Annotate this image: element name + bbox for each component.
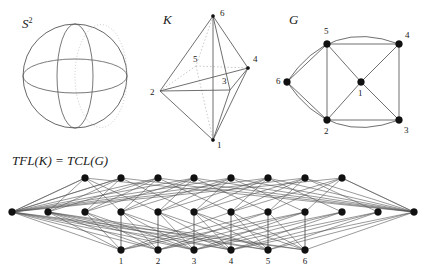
figure-labels <box>0 0 426 273</box>
figure-root: S2123456K123456G123456TFL(K) = TCL(G) <box>0 0 426 273</box>
